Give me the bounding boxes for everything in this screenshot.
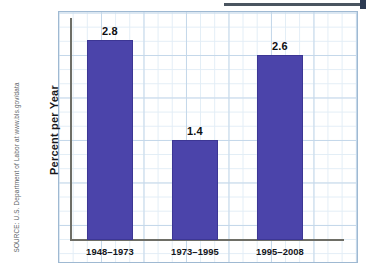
bar[interactable] [87, 40, 133, 240]
bar[interactable] [172, 140, 218, 240]
bar-value-label: 1.4 [172, 125, 218, 137]
bar-group: 1.41973–1995 [172, 1, 218, 240]
bar-group: 2.81948–1973 [87, 1, 133, 240]
x-axis-category-label: 1948–1973 [78, 246, 142, 257]
x-axis-category-label: 1995–2008 [248, 246, 312, 257]
bar-value-label: 2.6 [257, 40, 303, 52]
graph-paper-border-bottom [58, 262, 358, 263]
x-axis-category-label: 1973–1995 [163, 246, 227, 257]
bar-group: 2.61995–2008 [257, 1, 303, 240]
plot-area: 2.81948–19731.41973–19952.61995–2008 [0, 0, 371, 240]
bar[interactable] [257, 55, 303, 240]
bar-value-label: 2.8 [87, 25, 133, 37]
